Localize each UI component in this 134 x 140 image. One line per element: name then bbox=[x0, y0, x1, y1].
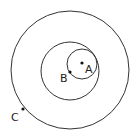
point-c-dot bbox=[21, 107, 24, 110]
concentric-circles-diagram: A B C bbox=[0, 0, 134, 140]
point-a-dot bbox=[80, 61, 83, 64]
point-b-dot bbox=[68, 70, 71, 73]
point-b-label: B bbox=[60, 72, 68, 85]
point-a-label: A bbox=[85, 63, 93, 76]
point-c-label: C bbox=[11, 111, 19, 124]
outer-circle bbox=[11, 11, 129, 129]
